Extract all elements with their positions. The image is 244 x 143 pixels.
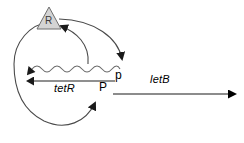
- gene-network-diagram: tetR letB P q R: [0, 0, 244, 143]
- repressor-arc-to-terminator: [59, 19, 122, 59]
- transcription-wavy-mrna: [32, 66, 120, 72]
- terminator-label: q: [115, 69, 122, 81]
- promoter-label-P: P: [99, 81, 107, 93]
- repressor-label-R: R: [45, 16, 52, 26]
- diagram-canvas: [0, 0, 244, 143]
- feedback-loop-to-promoter: [14, 22, 95, 125]
- gene-label-tetR: tetR: [54, 83, 75, 94]
- translation-arc-to-repressor: [61, 26, 88, 64]
- gene-label-letB: letB: [150, 74, 170, 85]
